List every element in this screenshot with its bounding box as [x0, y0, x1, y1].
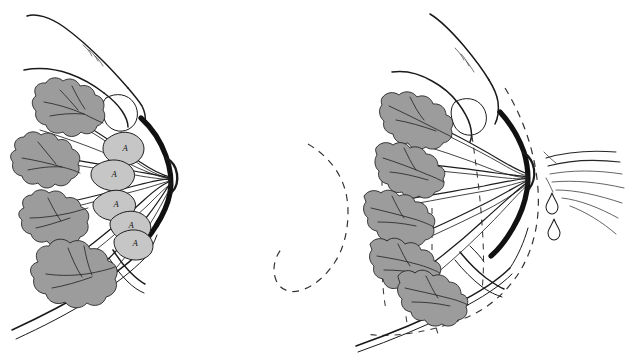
illustration-root: A A A A A: [0, 0, 635, 359]
ampulla-label: A: [112, 199, 119, 209]
ampulla-label: A: [110, 169, 117, 179]
ampulla-label: A: [131, 238, 138, 248]
milk-ejection-diagram: A A A A A: [0, 0, 635, 359]
ampulla-label: A: [127, 220, 134, 230]
ampulla-label: A: [121, 143, 128, 153]
